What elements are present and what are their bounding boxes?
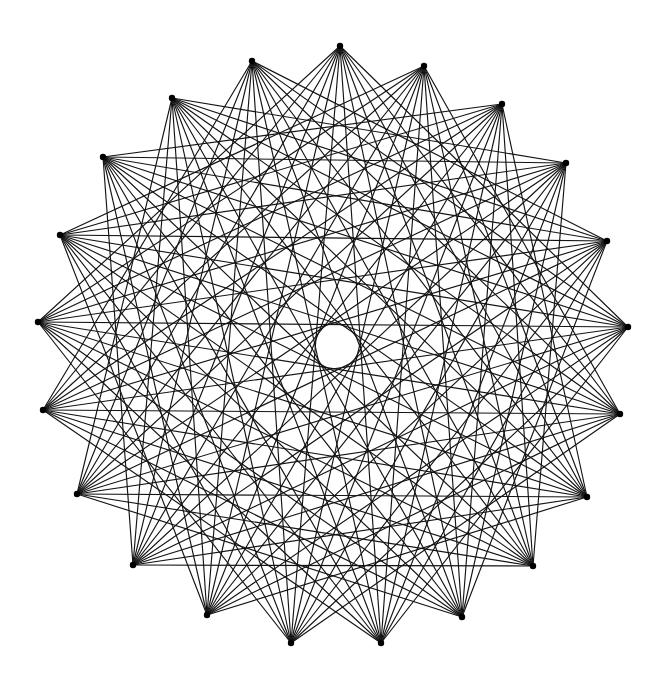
string-line xyxy=(103,157,566,163)
string-line xyxy=(38,322,462,617)
vertex-hub xyxy=(421,63,427,69)
vertex-hub xyxy=(40,407,46,413)
vertex-hub xyxy=(459,614,465,620)
vertex-hub xyxy=(249,58,255,64)
vertex-hub xyxy=(57,232,63,238)
string-line xyxy=(60,235,607,241)
vertex-hub xyxy=(337,43,343,49)
vertex-hub xyxy=(288,640,294,646)
string-art-figure xyxy=(0,0,668,690)
vertex-hub xyxy=(617,411,623,417)
vertex-hub xyxy=(100,154,106,160)
string-line xyxy=(172,98,566,163)
vertex-hub xyxy=(130,562,136,568)
string-line xyxy=(381,163,566,643)
string-line xyxy=(207,61,252,615)
string-line xyxy=(133,565,533,566)
string-line xyxy=(43,46,340,410)
string-line xyxy=(172,98,620,414)
string-line xyxy=(252,61,607,241)
vertex-hub xyxy=(204,612,210,618)
vertex-hub xyxy=(378,640,384,646)
string-line xyxy=(77,104,502,494)
vertex-hub xyxy=(74,491,80,497)
vertex-hub xyxy=(35,319,41,325)
string-line xyxy=(424,66,462,617)
connecting-lines xyxy=(38,46,628,643)
vertex-hub xyxy=(563,160,569,166)
string-line xyxy=(77,494,533,566)
string-line xyxy=(77,494,587,497)
vertex-hub xyxy=(604,238,610,244)
vertex-hub xyxy=(499,101,505,107)
string-line xyxy=(291,163,566,643)
vertex-hub xyxy=(169,95,175,101)
vertex-hub xyxy=(625,324,631,330)
string-line xyxy=(60,235,291,643)
string-line xyxy=(60,104,502,235)
vertex-hub xyxy=(530,563,536,569)
vertex-hub xyxy=(584,494,590,500)
string-line xyxy=(381,66,424,643)
